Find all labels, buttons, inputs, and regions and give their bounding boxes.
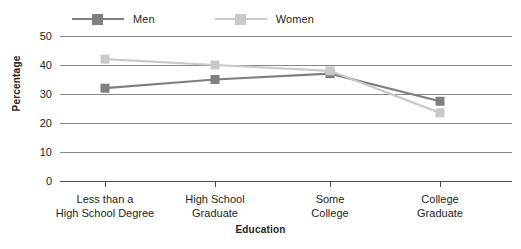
x-category-label-2: SomeCollege (311, 192, 348, 220)
plot-area (60, 36, 512, 181)
data-point-men-1 (211, 75, 220, 84)
line-chart: Men Women 50403020100 Percentage Less th… (0, 0, 521, 249)
legend-item-men: Men (72, 13, 155, 25)
series-line-women (105, 59, 440, 113)
y-tick-label-30: 30 (30, 89, 52, 100)
x-axis-title: Education (0, 224, 521, 235)
legend-label-women: Women (276, 13, 314, 25)
data-point-women-1 (211, 61, 220, 70)
y-tick-label-40: 40 (30, 60, 52, 71)
x-axis-ticks (60, 181, 512, 189)
x-category-label-1: High SchoolGraduate (185, 192, 244, 220)
data-point-women-0 (101, 55, 110, 64)
x-axis-category-labels: Less than aHigh School DegreeHigh School… (60, 192, 512, 226)
x-tick-0 (105, 181, 106, 187)
y-tick-label-10: 10 (30, 147, 52, 158)
x-tick-3 (440, 181, 441, 187)
y-axis-title: Percentage (11, 44, 22, 124)
series-line-men (105, 74, 440, 102)
chart-legend: Men Women (0, 8, 521, 30)
x-tick-2 (330, 181, 331, 187)
legend-item-women: Women (215, 13, 314, 25)
x-tick-1 (215, 181, 216, 187)
data-point-women-2 (326, 66, 335, 75)
legend-swatch-men (72, 13, 124, 25)
x-category-label-3: CollegeGraduate (417, 192, 463, 220)
legend-swatch-women (215, 13, 267, 25)
data-point-women-3 (436, 108, 445, 117)
y-tick-label-50: 50 (30, 31, 52, 42)
legend-marker-women (235, 14, 246, 25)
legend-marker-men (92, 14, 103, 25)
data-point-men-0 (101, 84, 110, 93)
y-tick-label-20: 20 (30, 118, 52, 129)
data-point-men-3 (436, 97, 445, 106)
legend-label-men: Men (133, 13, 155, 25)
y-tick-label-0: 0 (30, 176, 52, 187)
series-layer (60, 36, 512, 181)
y-axis-ticks: 50403020100 (0, 36, 52, 181)
x-category-label-0: Less than aHigh School Degree (56, 192, 154, 220)
